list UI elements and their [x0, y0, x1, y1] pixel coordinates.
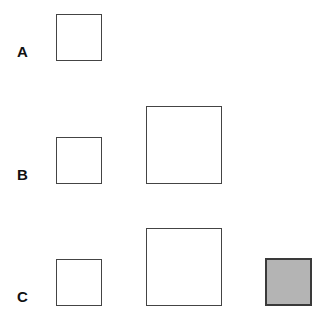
- row-b-large-square: [146, 106, 222, 184]
- row-label-c: C: [17, 289, 28, 304]
- row-label-b: B: [17, 167, 28, 182]
- row-c-gray-square: [265, 258, 312, 306]
- row-c-large-square: [146, 228, 222, 306]
- row-b-small-square: [56, 137, 102, 184]
- row-label-a: A: [17, 44, 28, 59]
- row-c-small-square: [56, 259, 102, 306]
- row-a-small-square: [56, 14, 102, 61]
